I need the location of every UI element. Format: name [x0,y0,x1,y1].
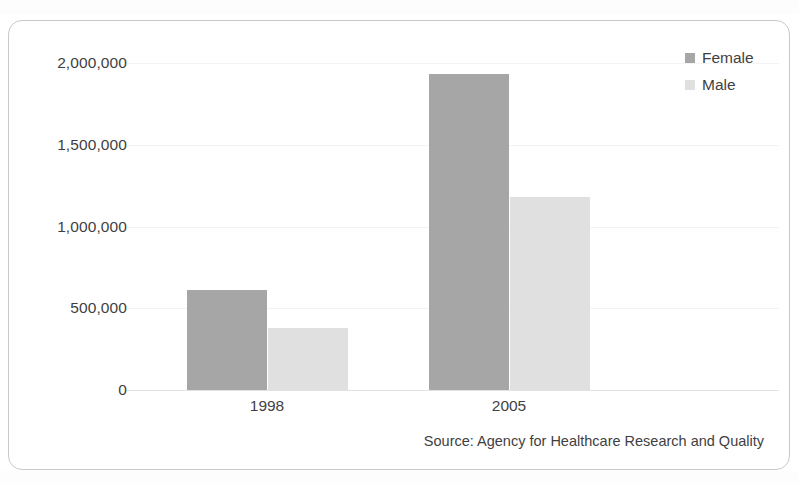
y-axis-tick-labels: 0500,0001,000,0001,500,0002,000,000 [9,21,127,471]
bar-male-2005 [510,197,590,390]
chart-screenshot: 0500,0001,000,0001,500,0002,000,000 1998… [0,0,799,485]
legend-item-female[interactable]: Female [685,49,754,67]
legend-label: Female [702,49,754,67]
source-note: Source: Agency for Healthcare Research a… [424,433,764,449]
x-axis-line [127,390,779,391]
chart-legend: FemaleMale [685,49,754,103]
bar-male-1998 [268,328,348,390]
plot-area: 0500,0001,000,0001,500,0002,000,000 1998… [9,21,791,471]
scan-artifact-bottom [0,471,799,485]
x-axis-label-1998: 1998 [250,397,284,415]
legend-swatch-icon [685,80,695,90]
x-axis-label-2005: 2005 [492,397,526,415]
bar-female-2005 [429,74,509,390]
legend-item-male[interactable]: Male [685,76,754,94]
legend-swatch-icon [685,53,695,63]
chart-frame: 0500,0001,000,0001,500,0002,000,000 1998… [8,20,790,470]
legend-label: Male [702,76,736,94]
y-axis-tick-label: 1,500,000 [19,136,127,154]
y-axis-tick-label: 2,000,000 [19,54,127,72]
scan-artifact-top [0,0,799,14]
bar-female-1998 [187,290,267,390]
y-axis-tick-label: 500,000 [19,299,127,317]
y-axis-tick-label: 0 [19,381,127,399]
gridline [127,63,779,64]
y-axis-tick-label: 1,000,000 [19,218,127,236]
